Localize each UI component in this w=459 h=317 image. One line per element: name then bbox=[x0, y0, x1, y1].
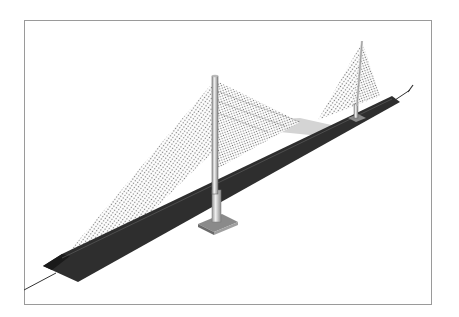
bridge-render bbox=[0, 0, 459, 317]
